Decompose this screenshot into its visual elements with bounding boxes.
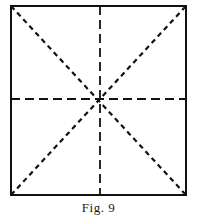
fold-diagram: Fig. 9 (0, 0, 197, 220)
figure-caption: Fig. 9 (0, 200, 197, 216)
fold-diagram-svg (0, 0, 197, 220)
